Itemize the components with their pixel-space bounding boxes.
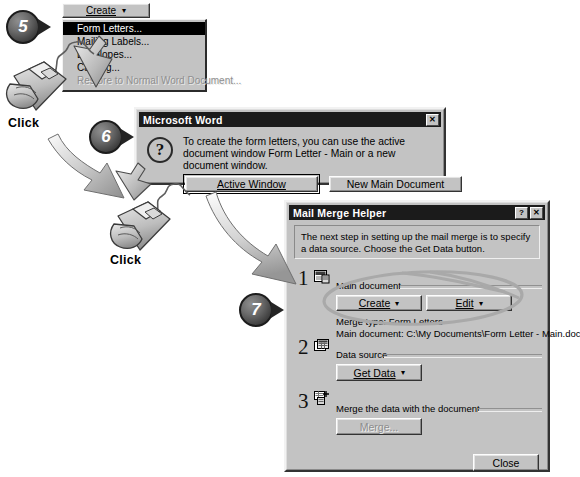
step-number: 7: [239, 293, 273, 327]
section-number-2: 2: [298, 337, 309, 358]
merge-button: Merge...: [336, 418, 422, 435]
merge-type-info: Merge type: Form Letters: [336, 316, 443, 327]
click-caption-2: Click: [110, 253, 141, 267]
section-label-merge: Merge the data with the document: [336, 403, 480, 414]
edit-button-label: Edit: [455, 297, 473, 309]
badge-pointer-tail: [121, 129, 134, 145]
word-dialog-message: To create the form letters, you can use …: [183, 136, 433, 172]
help-icon[interactable]: ?: [515, 207, 528, 219]
menu-item-label: Envelopes...: [77, 49, 132, 60]
step-badge-6: 6: [89, 120, 123, 154]
section-label-data-source: Data source: [336, 349, 387, 360]
merge-icon: [314, 391, 330, 405]
main-document-icon: [314, 270, 330, 284]
chevron-down-icon: ▾: [395, 299, 399, 308]
merge-button-label: Merge...: [360, 421, 399, 433]
chevron-down-icon: ▾: [401, 368, 405, 377]
chevron-down-icon: ▾: [122, 6, 126, 15]
section-number-3: 3: [298, 391, 309, 412]
step-number: 6: [89, 120, 123, 154]
word-dialog-body: ? To create the form letters, you can us…: [143, 131, 437, 178]
menu-item-mailing-labels[interactable]: Mailing Labels...: [63, 35, 205, 48]
hand-clicking-mouse-2: [111, 202, 170, 250]
create-button[interactable]: Create ▾: [336, 295, 422, 311]
mmh-title: Mail Merge Helper: [293, 207, 513, 219]
close-icon[interactable]: ✕: [426, 114, 439, 126]
mmh-body: The next step in setting up the mail mer…: [292, 223, 542, 465]
create-menu: Form Letters... Mailing Labels... Envelo…: [62, 19, 207, 92]
menu-item-envelopes[interactable]: Envelopes...: [63, 48, 205, 61]
section-number-1: 1: [298, 268, 309, 289]
step-badge-7: 7: [239, 293, 273, 327]
menu-item-catalog[interactable]: Catalog...: [63, 61, 205, 74]
new-main-document-button[interactable]: New Main Document: [329, 176, 462, 192]
close-button-label: Close: [493, 457, 520, 469]
section-rule: [384, 354, 542, 358]
get-data-button[interactable]: Get Data ▾: [336, 364, 422, 381]
mail-merge-helper-dialog: Mail Merge Helper ? ✕ The next step in s…: [284, 200, 550, 472]
chevron-down-icon: ▾: [479, 299, 483, 308]
word-dialog-title: Microsoft Word: [143, 114, 424, 126]
create-dropdown-button[interactable]: Create ▾: [62, 3, 150, 18]
new-main-document-button-label: New Main Document: [347, 178, 444, 190]
word-dialog-titlebar: Microsoft Word ✕: [139, 112, 441, 127]
menu-item-label: Form Letters...: [77, 23, 142, 34]
data-source-icon: [314, 339, 330, 353]
section-rule: [478, 408, 542, 412]
mmh-note-text: The next step in setting up the mail mer…: [294, 225, 540, 259]
step-number: 5: [6, 10, 40, 44]
flow-arrow-2: [206, 192, 296, 284]
close-icon[interactable]: ✕: [530, 207, 543, 219]
badge-pointer-tail: [38, 19, 51, 35]
badge-pointer-tail: [271, 302, 284, 318]
main-document-path-info: Main document: C:\My Documents\Form Lett…: [336, 328, 580, 339]
create-button-label: Create: [359, 297, 391, 309]
menu-item-label: Mailing Labels...: [77, 36, 149, 47]
close-button[interactable]: Close: [473, 454, 539, 471]
section-rule: [400, 285, 542, 289]
active-window-button[interactable]: Active Window: [185, 176, 318, 192]
create-button-label: Create: [86, 5, 116, 16]
edit-button[interactable]: Edit ▾: [426, 295, 512, 311]
menu-item-label: Restore to Normal Word Document...: [77, 75, 241, 86]
question-mark-icon: ?: [147, 137, 173, 163]
menu-item-label: Catalog...: [77, 62, 120, 73]
hand-clicking-mouse-1: [7, 62, 66, 110]
section-label-main-document: Main document: [336, 280, 401, 291]
click-caption-1: Click: [8, 116, 39, 130]
step-badge-5: 5: [6, 10, 40, 44]
microsoft-word-dialog: Microsoft Word ✕ ? To create the form le…: [134, 107, 446, 185]
get-data-button-label: Get Data: [353, 367, 395, 379]
active-window-button-label: Active Window: [217, 178, 286, 190]
mmh-titlebar: Mail Merge Helper ? ✕: [289, 205, 545, 220]
menu-item-form-letters[interactable]: Form Letters...: [63, 22, 205, 35]
menu-item-restore-normal-word-document: Restore to Normal Word Document...: [63, 74, 205, 87]
